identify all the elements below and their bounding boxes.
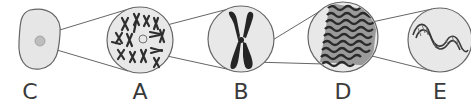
single-chromosome-illustration bbox=[208, 6, 274, 72]
dna-double-helix-illustration bbox=[408, 8, 471, 72]
coiled-chromatin-illustration bbox=[308, 2, 378, 72]
label-c: C bbox=[15, 80, 45, 104]
label-d: D bbox=[328, 80, 358, 104]
label-a: A bbox=[125, 80, 155, 104]
cell-to-dna-diagram: C A B D E bbox=[0, 0, 471, 109]
cell-illustration bbox=[19, 9, 60, 69]
label-e: E bbox=[425, 80, 455, 104]
chromosomes-cluster-illustration bbox=[107, 7, 173, 73]
nucleus bbox=[35, 36, 45, 46]
label-b: B bbox=[226, 80, 256, 104]
